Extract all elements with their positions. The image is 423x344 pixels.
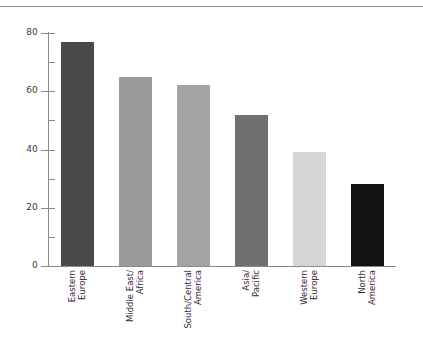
x-axis-label-text: NorthAmerica xyxy=(357,270,377,305)
bar[interactable] xyxy=(293,152,326,266)
bar[interactable] xyxy=(61,42,94,266)
x-axis-label-text: Asia/Pacific xyxy=(241,270,261,297)
bar[interactable] xyxy=(351,184,384,266)
x-axis-label-text: EasternEurope xyxy=(67,270,87,302)
x-axis-category-labels: EasternEuropeMiddle East/AfricaSouth/Cen… xyxy=(48,270,396,344)
y-tick-label: 20 xyxy=(12,202,38,212)
y-tick-label: 80 xyxy=(12,27,38,37)
y-tick-major xyxy=(41,33,48,34)
y-tick-inner xyxy=(49,266,55,267)
bar-chart: 020406080 EasternEuropeMiddle East/Afric… xyxy=(0,0,423,344)
x-axis-label: NorthAmerica xyxy=(351,270,384,344)
y-tick-major xyxy=(41,91,48,92)
x-axis-label-text: WesternEurope xyxy=(299,270,319,305)
x-axis-label-text: South/CentralAmerica xyxy=(183,270,203,329)
y-tick-major xyxy=(41,266,48,267)
x-axis-label-text: Middle East/Africa xyxy=(125,270,145,322)
bar-series xyxy=(48,33,396,266)
bar[interactable] xyxy=(119,77,152,266)
x-axis-label: EasternEurope xyxy=(61,270,94,344)
y-axis-tick-labels: 020406080 xyxy=(8,0,38,344)
bar[interactable] xyxy=(235,115,268,266)
x-axis-label: Middle East/Africa xyxy=(119,270,152,344)
y-tick-major xyxy=(41,208,48,209)
y-tick-label: 60 xyxy=(12,85,38,95)
y-tick-label: 40 xyxy=(12,144,38,154)
bar[interactable] xyxy=(177,85,210,266)
x-axis-label: South/CentralAmerica xyxy=(177,270,210,344)
x-axis-line xyxy=(48,266,396,267)
x-axis-label: WesternEurope xyxy=(293,270,326,344)
y-tick-label: 0 xyxy=(12,260,38,270)
x-axis-label: Asia/Pacific xyxy=(235,270,268,344)
y-tick-major xyxy=(41,150,48,151)
